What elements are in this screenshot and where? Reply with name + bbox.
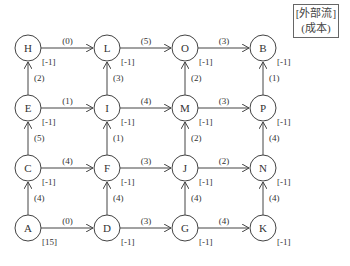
edge-cost-label: (5) [34,133,45,143]
edge-L-O: (5) [120,36,171,48]
node-M: M[-1] [172,95,213,127]
node-label: C [24,162,31,174]
edge-cost-label: (1) [62,96,73,106]
edge-D-G: (3) [120,216,171,228]
edge-E-I: (1) [41,96,93,108]
edge-cost-label: (3) [113,73,124,83]
edge-cost-label: (3) [219,36,230,46]
node-label: I [105,102,109,114]
node-external-flow: [-1] [277,237,291,247]
node-E: E[-1] [15,95,56,127]
node-external-flow: [15] [42,237,57,247]
node-label: E [25,102,32,114]
node-N: N[-1] [250,155,291,187]
node-label: O [181,42,189,54]
edge-cost-label: (3) [141,156,152,166]
node-external-flow: [-1] [121,237,135,247]
edge-cost-label: (2) [34,73,45,83]
edge-cost-label: (4) [141,96,152,106]
node-label: F [104,162,110,174]
edge-cost-label: (4) [113,193,124,203]
node-external-flow: [-1] [199,117,213,127]
edge-cost-label: (4) [269,133,280,143]
node-label: H [24,42,32,54]
edge-cost-label: (4) [191,193,202,203]
node-I: I[-1] [94,95,135,127]
edge-cost-label: (1) [269,73,280,83]
node-G: G[-1] [172,215,213,247]
edge-cost-label: (3) [219,96,230,106]
node-P: P[-1] [250,95,291,127]
node-label: L [104,42,111,54]
node-J: J[-1] [172,155,213,187]
legend-box: [外部流] (成本) [293,4,339,38]
node-external-flow: [-1] [121,57,135,67]
node-external-flow: [-1] [42,57,56,67]
edges-layer: (0)(5)(3)(1)(4)(3)(4)(3)(2)(0)(3)(4)(2)(… [28,36,280,228]
node-F: F[-1] [94,155,135,187]
edge-cost-label: (1) [113,133,124,143]
node-label: N [259,162,267,174]
edge-cost-label: (2) [191,133,202,143]
node-label: P [260,102,266,114]
node-B: B[-1] [250,35,291,67]
node-H: H[-1] [15,35,56,67]
node-label: K [259,222,267,234]
edge-cost-label: (4) [219,216,230,226]
edge-G-K: (4) [198,216,249,228]
node-O: O[-1] [172,35,213,67]
edge-A-D: (0) [41,216,93,228]
edge-cost-label: (5) [141,36,152,46]
edge-cost-label: (0) [62,216,73,226]
edge-J-N: (2) [198,156,249,168]
node-label: A [24,222,32,234]
edge-cost-label: (4) [62,156,73,166]
node-D: D[-1] [94,215,135,247]
node-external-flow: [-1] [277,117,291,127]
node-A: A[15] [15,215,57,247]
edge-M-P: (3) [198,96,249,108]
node-external-flow: [-1] [199,237,213,247]
edge-cost-label: (0) [62,36,73,46]
edge-cost-label: (2) [191,73,202,83]
node-external-flow: [-1] [42,177,56,187]
node-label: J [183,162,188,174]
node-label: G [181,222,189,234]
node-L: L[-1] [94,35,135,67]
edge-F-J: (3) [120,156,171,168]
edge-O-B: (3) [198,36,249,48]
node-external-flow: [-1] [199,57,213,67]
edge-C-F: (4) [41,156,93,168]
edge-cost-label: (4) [269,193,280,203]
edge-cost-label: (2) [219,156,230,166]
node-external-flow: [-1] [42,117,56,127]
edge-cost-label: (3) [141,216,152,226]
node-label: D [103,222,111,234]
node-label: B [259,42,266,54]
node-label: M [180,102,190,114]
legend-cost: (成本) [294,21,338,36]
legend-external-flow: [外部流] [294,6,338,21]
node-external-flow: [-1] [121,117,135,127]
node-external-flow: [-1] [121,177,135,187]
edge-I-M: (4) [120,96,171,108]
node-external-flow: [-1] [199,177,213,187]
edge-H-L: (0) [41,36,93,48]
network-flow-diagram: (0)(5)(3)(1)(4)(3)(4)(3)(2)(0)(3)(4)(2)(… [0,0,350,266]
node-C: C[-1] [15,155,56,187]
nodes-layer: H[-1]L[-1]O[-1]B[-1]E[-1]I[-1]M[-1]P[-1]… [15,35,291,247]
node-K: K[-1] [250,215,291,247]
node-external-flow: [-1] [277,177,291,187]
node-external-flow: [-1] [277,57,291,67]
edge-cost-label: (4) [34,193,45,203]
